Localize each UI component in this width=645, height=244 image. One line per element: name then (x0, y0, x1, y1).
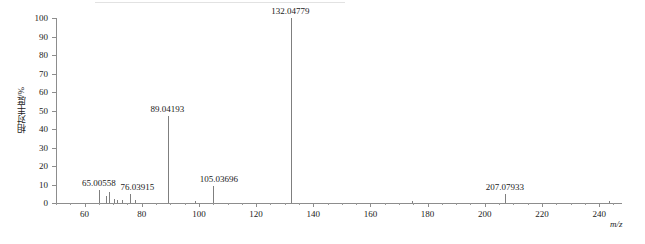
y-tick-mark (52, 111, 56, 112)
x-tick-major (542, 203, 543, 207)
y-tick-label: 20 (39, 162, 48, 171)
y-tick-label: 70 (39, 70, 48, 79)
y-tick-mark (52, 148, 56, 149)
x-tick-label: 160 (364, 210, 378, 219)
x-tick-minor (70, 203, 71, 205)
spectrum-peak (505, 194, 506, 203)
spectrum-peak (291, 18, 292, 203)
x-tick-minor (113, 203, 114, 205)
x-tick-minor (499, 203, 500, 205)
y-tick-mark (52, 166, 56, 167)
x-tick-label: 100 (192, 210, 206, 219)
y-axis-title: 相对丰度/% (16, 60, 30, 160)
x-tick-major (485, 203, 486, 207)
x-tick-minor (228, 203, 229, 205)
y-tick-mark (52, 92, 56, 93)
x-tick-label: 120 (249, 210, 263, 219)
y-tick-label: 60 (39, 88, 48, 97)
x-tick-minor (170, 203, 171, 205)
y-tick-mark (52, 18, 56, 19)
x-tick-minor (442, 203, 443, 205)
spectrum-peak (195, 201, 196, 203)
y-tick-label: 10 (39, 181, 48, 190)
x-tick-minor (413, 203, 414, 205)
x-tick-minor (127, 203, 128, 205)
y-tick-label: 100 (35, 14, 49, 23)
x-tick-label: 180 (421, 210, 435, 219)
spectrum-peak (412, 201, 413, 203)
x-tick-major (599, 203, 600, 207)
x-tick-minor (156, 203, 157, 205)
peak-label: 65.00558 (82, 179, 116, 188)
x-tick-label: 80 (137, 210, 146, 219)
x-tick-minor (399, 203, 400, 205)
x-tick-major (199, 203, 200, 207)
x-tick-label: 220 (535, 210, 549, 219)
y-tick-mark (52, 185, 56, 186)
y-tick-label: 30 (39, 144, 48, 153)
x-tick-minor (56, 203, 57, 205)
peak-label: 76.03915 (121, 183, 155, 192)
x-tick-minor (613, 203, 614, 205)
y-tick-mark (52, 74, 56, 75)
x-tick-major (142, 203, 143, 207)
x-tick-minor (513, 203, 514, 205)
x-tick-minor (185, 203, 186, 205)
x-tick-label: 200 (478, 210, 492, 219)
plot-area: 0102030405060708090100 60801001201401601… (56, 18, 622, 203)
x-tick-minor (328, 203, 329, 205)
x-tick-label: 60 (80, 210, 89, 219)
x-tick-minor (99, 203, 100, 205)
peak-label: 132.04779 (271, 7, 309, 16)
x-tick-minor (571, 203, 572, 205)
x-tick-label: 240 (592, 210, 606, 219)
peak-label: 207.07933 (486, 183, 524, 192)
peak-label: 89.04193 (151, 105, 185, 114)
x-tick-minor (456, 203, 457, 205)
spectrum-peak (130, 194, 131, 203)
x-tick-minor (242, 203, 243, 205)
spectrum-peak (99, 190, 100, 203)
spectrum-peak (168, 116, 169, 203)
x-tick-minor (285, 203, 286, 205)
x-tick-minor (556, 203, 557, 205)
y-tick-label: 0 (44, 199, 49, 208)
y-tick-label: 90 (39, 33, 48, 42)
y-tick-mark (52, 37, 56, 38)
spectrum-peak (122, 200, 123, 203)
x-tick-minor (470, 203, 471, 205)
y-tick-label: 40 (39, 125, 48, 134)
y-tick-mark (52, 55, 56, 56)
x-tick-minor (385, 203, 386, 205)
y-tick-label: 50 (39, 107, 48, 116)
spectrum-peak (109, 192, 110, 203)
spectrum-peak (609, 201, 610, 203)
x-tick-major (428, 203, 429, 207)
x-tick-minor (528, 203, 529, 205)
mass-spectrum-figure: 相对丰度/% 0102030405060708090100 6080100120… (0, 0, 645, 244)
x-tick-minor (342, 203, 343, 205)
y-tick-label: 80 (39, 51, 48, 60)
spectrum-peak (213, 186, 214, 203)
x-axis-title: m/z (610, 219, 623, 229)
x-tick-minor (585, 203, 586, 205)
x-tick-major (85, 203, 86, 207)
spectrum-peak (135, 200, 136, 203)
x-tick-minor (299, 203, 300, 205)
x-tick-minor (213, 203, 214, 205)
x-tick-major (313, 203, 314, 207)
x-tick-minor (356, 203, 357, 205)
y-axis-line (56, 18, 57, 203)
x-tick-major (256, 203, 257, 207)
x-tick-label: 140 (307, 210, 321, 219)
spectrum-peak (106, 196, 107, 203)
x-tick-major (370, 203, 371, 207)
y-tick-mark (52, 129, 56, 130)
spectrum-peak (117, 200, 118, 203)
x-tick-minor (270, 203, 271, 205)
spectrum-peak (114, 199, 115, 203)
peak-label: 105.03696 (200, 175, 238, 184)
